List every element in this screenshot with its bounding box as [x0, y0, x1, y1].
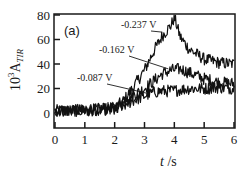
annotation-leader-line — [151, 31, 162, 32]
y-tick-label: 20 — [37, 81, 50, 96]
x-tick-label: 6 — [231, 132, 238, 147]
svg-text:103ATIR: 103ATIR — [6, 48, 25, 91]
y-title-base: 10 — [8, 77, 23, 91]
x-axis-title: t /s — [160, 154, 177, 169]
y-axis-ticks: 020406080 — [37, 8, 60, 121]
chart: 020406080 0123456 -0.237 V-0.162 V-0.087… — [0, 0, 248, 176]
panel-label: (a) — [64, 23, 80, 38]
y-tick-label: 60 — [37, 32, 50, 47]
data-series — [55, 15, 234, 116]
x-tick-label: 4 — [171, 132, 178, 147]
series-annotation-label: -0.237 V — [121, 19, 157, 30]
series-annotation-label: -0.162 V — [99, 44, 135, 55]
y-axis-title: 103ATIR — [6, 48, 25, 91]
x-tick-label: 5 — [201, 132, 208, 147]
y-tick-label: 40 — [37, 57, 50, 72]
x-tick-label: 2 — [111, 132, 118, 147]
annotation-leader-line — [129, 56, 168, 69]
x-tick-label: 0 — [52, 132, 59, 147]
x-tick-label: 1 — [82, 132, 89, 147]
y-title-sub: TIR — [15, 48, 25, 62]
x-tick-label: 3 — [141, 132, 148, 147]
y-tick-label: 0 — [44, 106, 51, 121]
x-title-unit: /s — [164, 154, 177, 169]
series-line — [55, 15, 234, 116]
y-tick-label: 80 — [37, 8, 50, 23]
series-annotation-label: -0.087 V — [77, 72, 113, 83]
series-line — [55, 83, 234, 117]
x-axis-ticks: 0123456 — [52, 122, 238, 147]
